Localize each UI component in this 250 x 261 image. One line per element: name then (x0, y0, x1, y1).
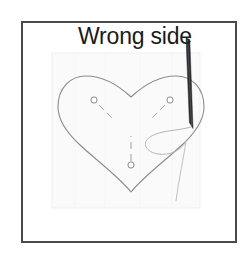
pin-left-head (91, 97, 97, 103)
illustration-root: Wrong side (0, 0, 250, 261)
pin-right-head (167, 97, 173, 103)
pin-center-head (128, 162, 134, 168)
sewing-illustration-canvas: Wrong side (0, 0, 250, 261)
wrong-side-label: Wrong side (78, 23, 192, 49)
